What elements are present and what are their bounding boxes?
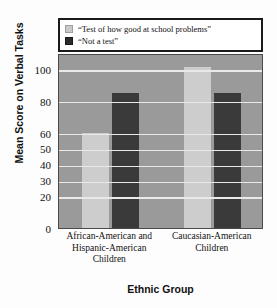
bar-group-1-series-2 xyxy=(112,93,139,228)
y-tick-50: 50 xyxy=(40,144,51,155)
x-axis-title: Ethnic Group xyxy=(58,283,263,295)
gridline-80 xyxy=(59,102,262,104)
gridline-50 xyxy=(59,150,262,152)
y-tick-0: 0 xyxy=(46,224,52,235)
legend-item-not-a-test: “Not a test” xyxy=(65,35,257,47)
y-tick-80: 80 xyxy=(40,96,51,107)
gridline-60 xyxy=(59,134,262,136)
x-axis-tick-labels: African-American andHispanic-AmericanChi… xyxy=(58,231,263,266)
legend-item-test-of-how-good: “Test of how good at school problems” xyxy=(65,23,257,35)
x-tick-label-group-1: African-American andHispanic-AmericanChi… xyxy=(58,231,161,266)
bar-group-1-series-1 xyxy=(82,133,109,228)
legend-swatch-light-icon xyxy=(65,25,73,33)
y-tick-40: 40 xyxy=(40,160,51,171)
chart-legend: “Test of how good at school problems” “N… xyxy=(58,18,263,52)
y-tick-20: 20 xyxy=(40,192,51,203)
gridline-40 xyxy=(59,166,262,168)
legend-label-series-1: “Test of how good at school problems” xyxy=(78,24,211,35)
legend-label-series-2: “Not a test” xyxy=(78,36,118,47)
y-tick-60: 60 xyxy=(40,128,51,139)
x-tick-label-group-2: Caucasian-AmericanChildren xyxy=(161,231,264,266)
gridline-20 xyxy=(59,197,262,199)
y-tick-100: 100 xyxy=(35,64,52,75)
gridline-100 xyxy=(59,70,262,72)
bar-chart-figure: “Test of how good at school problems” “N… xyxy=(0,0,277,308)
bar-group-2-series-2 xyxy=(214,93,241,228)
y-tick-30: 30 xyxy=(40,176,51,187)
legend-swatch-dark-icon xyxy=(65,37,73,45)
y-axis-tick-labels: 1008060504030200 xyxy=(0,54,55,229)
x-tick-line: Hispanic-American xyxy=(59,243,160,255)
x-tick-line: Children xyxy=(59,254,160,266)
x-tick-line: Caucasian-American xyxy=(162,231,263,243)
gridline-30 xyxy=(59,182,262,184)
plot-area xyxy=(58,54,263,229)
x-tick-line: African-American and xyxy=(59,231,160,243)
x-tick-line: Children xyxy=(162,243,263,255)
bar-group-2-series-1 xyxy=(184,67,211,228)
